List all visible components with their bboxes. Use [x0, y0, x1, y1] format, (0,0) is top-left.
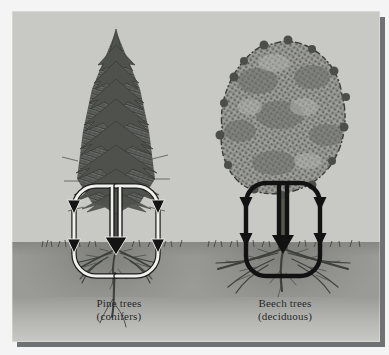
circulation-loops-layer	[12, 11, 380, 342]
caption-pine-line1: Pine trees	[96, 297, 141, 309]
beech-circulation-loops	[240, 183, 327, 276]
illustration-figure: Pine trees (conifers) Beech trees (decid…	[0, 0, 389, 355]
caption-pine: Pine trees (conifers)	[54, 297, 184, 323]
caption-beech: Beech trees (deciduous)	[220, 297, 350, 323]
pine-circulation-loops	[68, 186, 165, 276]
pine-loop-inner-limbs	[112, 187, 120, 243]
caption-beech-line2: (deciduous)	[220, 310, 350, 323]
pine-arrowheads	[68, 200, 165, 255]
caption-pine-line2: (conifers)	[54, 310, 184, 323]
beech-arrowheads	[240, 197, 327, 254]
caption-beech-line1: Beech trees	[258, 297, 311, 309]
beech-loop-inner-limbs	[279, 184, 287, 241]
illustration-plate: Pine trees (conifers) Beech trees (decid…	[12, 11, 380, 342]
